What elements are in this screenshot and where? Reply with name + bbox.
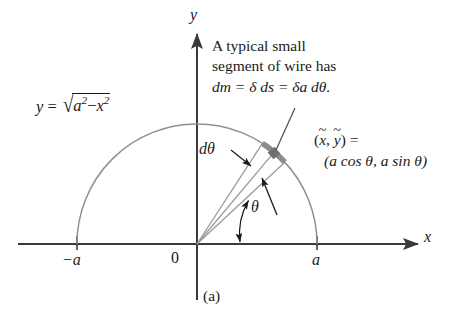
equation-lhs: y [36,97,43,116]
annotation-line-1: A typical small [212,36,336,56]
tick-label-a: a [312,251,320,270]
radicand-term-2-exponent: 2 [104,94,110,106]
paren-close-equals: ) = [341,131,359,148]
dtheta-label: dθ [199,140,215,159]
y-axis-label: y [190,6,197,25]
point-coordinate-line-2: (a cos θ, a sin θ) [314,151,427,172]
dtheta-arrow [231,150,251,166]
theta-label: θ [251,198,259,217]
curve-equation: y = √a2−x2 [36,94,110,117]
tilde-over-x: ~ [319,121,327,140]
point-coordinate-line-1: (~x, ~y) = [314,130,427,151]
figure-caption: (a) [203,287,220,305]
equation-equals: = [47,97,56,116]
wedge-ray-middle [197,152,274,244]
annotation-leader-line [276,108,295,150]
radicand-minus: − [87,96,96,115]
radicand-term-2-base: x [97,96,104,115]
tick-label-origin: 0 [171,249,179,268]
radical-overbar: a2−x2 [72,93,110,115]
tilde-over-y: ~ [333,121,341,140]
x-axis-label: x [424,228,431,247]
y-tilde: ~y [334,130,341,151]
annotation-text: A typical small segment of wire has dm =… [212,36,336,97]
annotation-line-3: dm = δ ds = δa dθ. [212,77,336,97]
figure-container: A typical small segment of wire has dm =… [0,0,452,322]
tick-label-neg-a: −a [62,251,81,270]
radicand-term-1-base: a [73,96,81,115]
theta-angle-arc [239,201,248,243]
point-coordinate-label: (~x, ~y) = (a cos θ, a sin θ) [314,130,427,172]
x-tilde: ~x [319,130,326,151]
segment-pointer-arrow [262,178,277,215]
annotation-line-2: segment of wire has [212,56,336,76]
radical-group: √a2−x2 [61,94,111,117]
